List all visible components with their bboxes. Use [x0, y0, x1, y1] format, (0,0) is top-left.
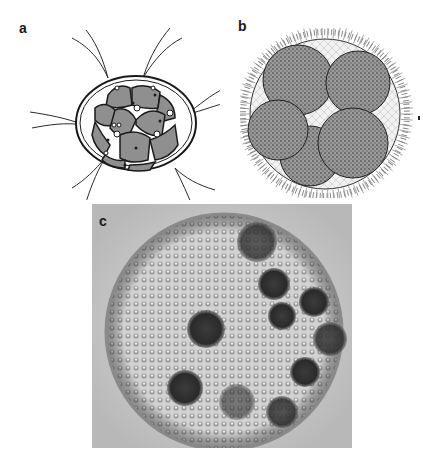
panel-c-label: c: [99, 213, 107, 229]
panel-a-drawing: [10, 10, 220, 200]
panel-c-micrograph: [92, 204, 352, 448]
panel-b-drawing: [240, 28, 420, 198]
